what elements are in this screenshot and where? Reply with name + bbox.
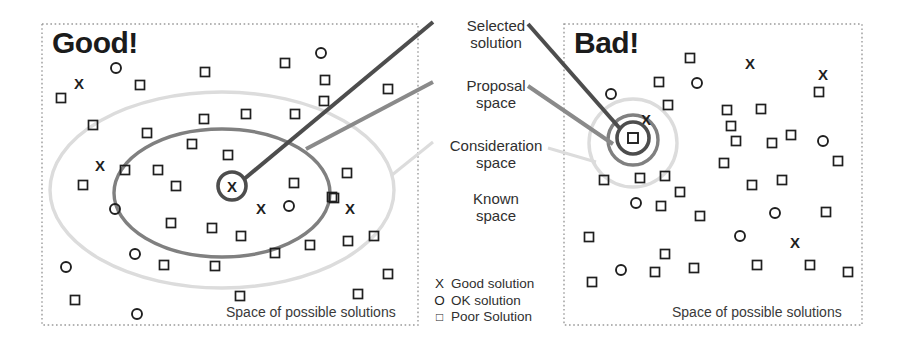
poor-solution-marker xyxy=(343,169,352,178)
poor-solution-marker xyxy=(686,54,695,63)
poor-solution-marker xyxy=(154,166,163,175)
poor-solution-marker xyxy=(690,264,699,273)
poor-solution-marker xyxy=(723,106,732,115)
selected-solution-ring-right xyxy=(617,122,649,154)
ok-solution-marker xyxy=(692,78,702,88)
ok-solution-marker xyxy=(111,63,121,73)
poor-solution-marker xyxy=(236,292,245,301)
poor-solution-marker xyxy=(167,219,176,228)
poor-solution-marker xyxy=(201,68,210,77)
poor-solution-marker xyxy=(636,174,645,183)
poor-solution-marker xyxy=(79,181,88,190)
legend-row: OOK solution xyxy=(432,293,534,310)
poor-solution-marker xyxy=(188,140,197,149)
poor-solution-marker xyxy=(753,261,762,270)
poor-solution-marker xyxy=(208,224,217,233)
poor-solution-marker xyxy=(290,179,299,188)
poor-solution-marker xyxy=(320,97,329,106)
label-selected-solution: Selected solution xyxy=(431,17,561,51)
ok-solution-marker xyxy=(606,89,616,99)
good-solution-marker: X xyxy=(74,75,84,92)
ok-solution-marker xyxy=(631,198,641,208)
good-solution-marker: X xyxy=(818,66,828,83)
poor-solution-marker xyxy=(384,85,393,94)
poor-solution-marker xyxy=(291,110,300,119)
good-solution-icon: X xyxy=(432,276,447,293)
poor-solution-marker xyxy=(778,176,787,185)
legend-label: Poor Solution xyxy=(451,309,532,326)
legend-label: Good solution xyxy=(451,276,534,293)
poor-solution-icon: □ xyxy=(432,309,447,326)
poor-solution-marker xyxy=(172,182,181,191)
poor-solution-marker xyxy=(200,115,209,124)
poor-solution-marker xyxy=(768,139,777,148)
caption-space-of-possible-solutions-left: Space of possible solutions xyxy=(226,304,396,320)
ok-solution-marker xyxy=(770,208,780,218)
good-solution-marker: X xyxy=(790,234,800,251)
poor-solution-marker xyxy=(143,129,152,138)
poor-solution-marker xyxy=(727,122,736,131)
poor-solution-marker xyxy=(354,290,363,299)
legend-row: XGood solution xyxy=(432,276,534,293)
panel-title-bad: Bad! xyxy=(574,26,639,60)
good-solution-marker: X xyxy=(745,55,755,72)
poor-solution-marker xyxy=(696,212,705,221)
legend-row: □Poor Solution xyxy=(432,309,534,326)
poor-solution-marker xyxy=(306,241,315,250)
poor-solution-marker xyxy=(160,261,169,270)
poor-solution-marker xyxy=(732,137,741,146)
poor-solution-marker xyxy=(822,208,831,217)
label-known-space: Known space xyxy=(431,190,561,224)
legend: XGood solutionOOK solution□Poor Solution xyxy=(432,276,534,326)
poor-solution-marker xyxy=(211,262,220,271)
good-solution-marker: X xyxy=(256,200,266,217)
good-solution-marker: X xyxy=(345,200,355,217)
ok-solution-marker xyxy=(284,201,294,211)
good-solution-marker: X xyxy=(95,157,105,174)
ok-solution-marker xyxy=(130,249,140,259)
poor-solution-marker xyxy=(720,159,729,168)
poor-solution-marker xyxy=(748,181,757,190)
ok-solution-marker xyxy=(61,262,71,272)
ok-solution-marker xyxy=(735,231,745,241)
legend-label: OK solution xyxy=(451,293,521,310)
poor-solution-marker xyxy=(57,94,66,103)
diagram-canvas: XXXXXXXX X Good! Bad! Space of possible … xyxy=(0,0,908,348)
poor-solution-marker xyxy=(588,278,597,287)
label-consideration-space: Consideration space xyxy=(426,137,566,171)
poor-solution-marker xyxy=(651,268,660,277)
poor-solution-marker xyxy=(321,76,330,85)
panel-title-good: Good! xyxy=(52,26,138,60)
poor-solution-marker xyxy=(344,237,353,246)
poor-solution-marker xyxy=(237,232,246,241)
poor-solution-marker xyxy=(585,233,594,242)
poor-solution-marker xyxy=(787,131,796,140)
ok-solution-marker xyxy=(132,309,142,319)
connector-selected-left xyxy=(243,22,433,180)
poor-solution-marker xyxy=(844,268,853,277)
ok-solution-marker xyxy=(616,265,626,275)
poor-solution-marker xyxy=(224,151,233,160)
poor-solution-marker xyxy=(657,202,666,211)
poor-solution-marker xyxy=(655,78,664,87)
poor-solution-marker xyxy=(384,270,393,279)
poor-solution-marker xyxy=(664,101,673,110)
poor-solution-marker xyxy=(661,250,670,259)
ok-solution-marker xyxy=(818,136,828,146)
label-proposal-space: Proposal space xyxy=(431,77,561,111)
selected-solution-glyph-left: X xyxy=(227,178,237,195)
caption-space-of-possible-solutions-right: Space of possible solutions xyxy=(672,304,842,320)
poor-solution-marker xyxy=(815,88,824,97)
poor-solution-marker xyxy=(281,59,290,68)
ok-solution-icon: O xyxy=(432,293,447,310)
ok-solution-marker xyxy=(316,48,326,58)
poor-solution-marker xyxy=(136,81,145,90)
poor-solution-marker xyxy=(834,157,843,166)
poor-solution-marker xyxy=(242,110,251,119)
poor-solution-marker xyxy=(757,105,766,114)
poor-solution-marker xyxy=(676,188,685,197)
poor-solution-marker xyxy=(806,261,815,270)
poor-solution-marker xyxy=(71,296,80,305)
